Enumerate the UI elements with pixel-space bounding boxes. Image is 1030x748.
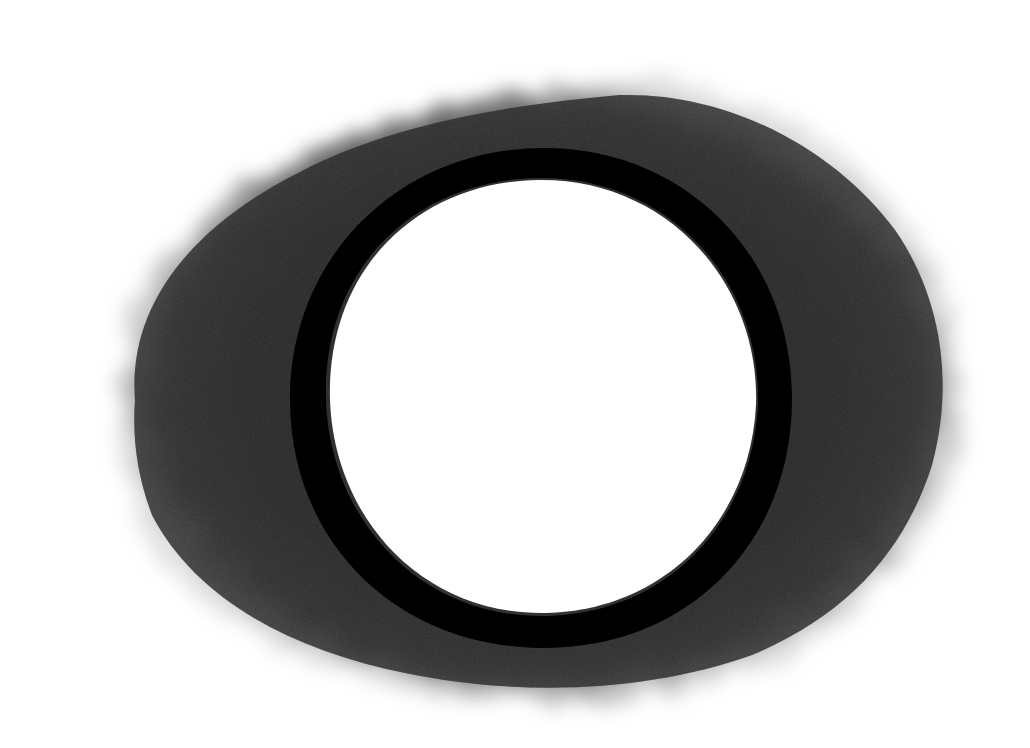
ring-drawing xyxy=(0,0,1030,748)
ring-interior xyxy=(330,180,756,613)
drawing-canvas xyxy=(0,0,1030,748)
